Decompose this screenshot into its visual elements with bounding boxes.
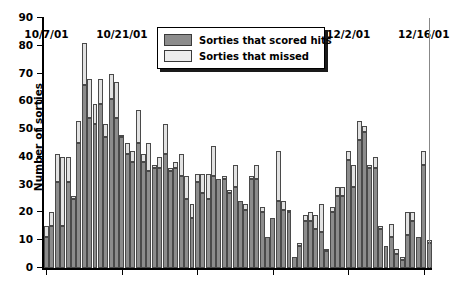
bar-segment-hits	[71, 199, 76, 268]
y-tick: 0	[37, 267, 44, 268]
bar-segment-missed	[125, 143, 130, 154]
bar-segment-hits	[313, 229, 318, 268]
bar-segment-hits	[233, 187, 238, 268]
bar-segment-missed	[60, 157, 65, 226]
bar	[114, 82, 119, 268]
bar	[330, 207, 335, 268]
y-tick: 30	[37, 184, 44, 185]
bar	[410, 212, 415, 268]
bar-segment-missed	[211, 146, 216, 177]
y-tick-label: 80	[18, 39, 33, 51]
bar-segment-missed	[82, 43, 87, 85]
bar-segment-hits	[66, 182, 71, 268]
bar-segment-missed	[297, 243, 302, 246]
y-tick: 60	[37, 100, 44, 101]
bar-segment-missed	[389, 224, 394, 238]
bar-segment-hits	[76, 143, 81, 268]
bar-segment-missed	[249, 176, 254, 179]
plot-right-edge	[429, 18, 430, 268]
x-tick	[348, 268, 349, 275]
bar-segment-hits	[60, 226, 65, 268]
bar-segment-hits	[216, 179, 221, 268]
bar-segment-hits	[292, 257, 297, 268]
bar	[378, 226, 383, 268]
bar	[49, 212, 54, 268]
bar-segment-hits	[222, 179, 227, 268]
bar-segment-missed	[421, 151, 426, 165]
bar-segment-hits	[362, 132, 367, 268]
bar-segment-hits	[319, 232, 324, 268]
bar-segment-hits	[190, 218, 195, 268]
bar-segment-hits	[249, 179, 254, 268]
bar	[265, 237, 270, 268]
bar-segment-hits	[243, 210, 248, 268]
bar	[254, 165, 259, 268]
bar-segment-missed	[330, 207, 335, 213]
bar-segment-missed	[335, 187, 340, 195]
y-tick-label: 0	[26, 261, 33, 273]
bar-segment-hits	[157, 168, 162, 268]
bar-segment-hits	[340, 196, 345, 268]
bar-segment-missed	[340, 187, 345, 195]
bar	[152, 165, 157, 268]
bar-segment-missed	[179, 154, 184, 176]
bar	[367, 165, 372, 268]
y-tick-label: 30	[18, 178, 33, 190]
legend-swatch-missed	[164, 50, 192, 62]
bar	[216, 179, 221, 268]
bar-segment-missed	[233, 165, 238, 187]
bar	[163, 124, 168, 268]
bar-segment-missed	[87, 79, 92, 118]
bar-segment-missed	[362, 126, 367, 132]
bar-segment-hits	[265, 237, 270, 268]
legend-item-hits: Sorties that scored hits	[164, 32, 318, 48]
bar-segment-missed	[157, 157, 162, 168]
bar	[184, 176, 189, 268]
chart-figure: Number of sorties 0102030405060708090 10…	[0, 0, 454, 304]
bar-segment-hits	[130, 162, 135, 268]
bar-segment-hits	[394, 254, 399, 268]
bar	[308, 212, 313, 268]
bar-segment-missed	[254, 165, 259, 179]
bar	[303, 215, 308, 268]
bar-segment-missed	[313, 215, 318, 229]
bar	[55, 154, 60, 268]
bar	[238, 201, 243, 268]
bar	[103, 124, 108, 268]
x-tick-label: 12/2/01	[326, 28, 370, 40]
y-tick: 40	[37, 156, 44, 157]
bar-segment-missed	[173, 162, 178, 168]
bar-segment-missed	[141, 154, 146, 162]
bar	[384, 246, 389, 268]
bar-segment-hits	[98, 104, 103, 268]
y-tick: 90	[37, 17, 44, 18]
bar-segment-missed	[346, 151, 351, 159]
bar	[292, 257, 297, 268]
bar-segment-missed	[319, 204, 324, 232]
bar-segment-hits	[146, 171, 151, 268]
y-tick-label: 20	[18, 205, 33, 217]
bar-segment-hits	[168, 171, 173, 268]
bar-segment-hits	[238, 201, 243, 268]
bar	[179, 154, 184, 268]
bar-segment-hits	[55, 182, 60, 268]
chart-legend: Sorties that scored hits Sorties that mi…	[157, 27, 325, 69]
bar-segment-missed	[195, 174, 200, 182]
bar-segment-hits	[351, 187, 356, 268]
bar-segment-missed	[206, 174, 211, 199]
bar-segment-missed	[276, 151, 281, 201]
y-tick: 10	[37, 239, 44, 240]
bar-segment-hits	[173, 168, 178, 268]
bar-segment-hits	[184, 199, 189, 268]
bar	[227, 190, 232, 268]
bar-segment-hits	[206, 199, 211, 268]
bar-segment-hits	[373, 168, 378, 268]
bar-segment-hits	[136, 143, 141, 268]
bar	[200, 174, 205, 268]
bar-segment-hits	[82, 85, 87, 268]
bar	[340, 187, 345, 268]
bar	[87, 79, 92, 268]
bar-segment-hits	[405, 235, 410, 268]
bar-segment-hits	[44, 237, 49, 268]
bar-segment-missed	[394, 249, 399, 255]
